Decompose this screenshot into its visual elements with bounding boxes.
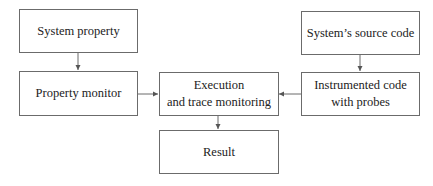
node-label: Result <box>203 144 235 161</box>
node-label-line-1: Execution <box>194 77 245 94</box>
node-execution: Execution and trace monitoring <box>159 72 279 116</box>
node-source-code: System’s source code <box>301 11 420 55</box>
node-property-monitor: Property monitor <box>19 71 138 116</box>
node-system-property: System property <box>19 9 138 53</box>
node-label: Property monitor <box>36 85 122 102</box>
node-label-line-2: with probes <box>331 94 390 111</box>
node-label-line-1: Instrumented code <box>314 77 407 94</box>
node-label: System property <box>37 23 119 40</box>
node-label-line-2: and trace monitoring <box>167 94 271 111</box>
node-instrumented-code: Instrumented code with probes <box>301 72 420 116</box>
node-label: System’s source code <box>307 25 415 42</box>
node-result: Result <box>159 130 279 174</box>
